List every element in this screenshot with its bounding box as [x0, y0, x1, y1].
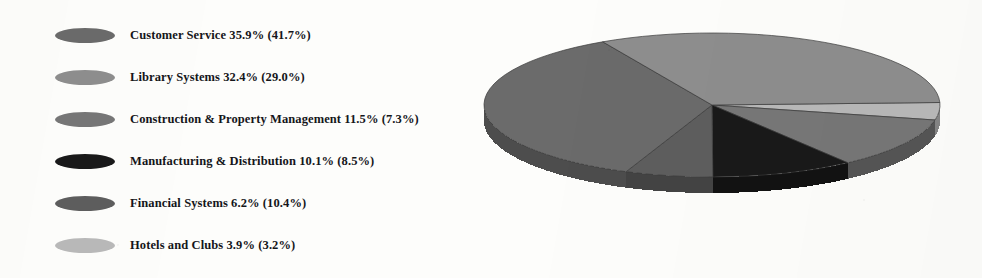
legend-swatch-manufacturing-distribution	[55, 154, 115, 169]
legend-item[interactable]: Hotels and Clubs 3.9% (3.2%)	[55, 224, 475, 266]
legend-item-label: Financial Systems 6.2% (10.4%)	[130, 196, 306, 211]
legend-swatch-construction-property-management	[55, 112, 115, 127]
pie-chart-svg[interactable]: Hotels and Clubs 3.9%Construction & Prop…	[470, 18, 970, 218]
legend-item[interactable]: Customer Service 35.9% (41.7%)	[55, 14, 475, 56]
legend-item[interactable]: Construction & Property Management 11.5%…	[55, 98, 475, 140]
legend-swatch-customer-service	[55, 28, 115, 43]
legend-item[interactable]: Library Systems 32.4% (29.0%)	[55, 56, 475, 98]
legend-swatch-library-systems	[55, 70, 115, 85]
pie-slices: Hotels and Clubs 3.9%Construction & Prop…	[484, 33, 940, 177]
legend-item-label: Construction & Property Management 11.5%…	[130, 112, 419, 127]
legend-item-label: Hotels and Clubs 3.9% (3.2%)	[130, 238, 295, 253]
chart-legend: Customer Service 35.9% (41.7%) Library S…	[55, 14, 475, 266]
legend-item[interactable]: Financial Systems 6.2% (10.4%)	[55, 182, 475, 224]
legend-swatch-financial-systems	[55, 196, 115, 211]
pie-chart-figure: Customer Service 35.9% (41.7%) Library S…	[0, 0, 982, 278]
legend-item-label: Customer Service 35.9% (41.7%)	[130, 28, 311, 43]
pie-plot-area: Hotels and Clubs 3.9%Construction & Prop…	[470, 18, 970, 218]
legend-item[interactable]: Manufacturing & Distribution 10.1% (8.5%…	[55, 140, 475, 182]
legend-item-label: Manufacturing & Distribution 10.1% (8.5%…	[130, 154, 374, 169]
legend-item-label: Library Systems 32.4% (29.0%)	[130, 70, 305, 85]
legend-swatch-hotels-and-clubs	[55, 238, 115, 253]
